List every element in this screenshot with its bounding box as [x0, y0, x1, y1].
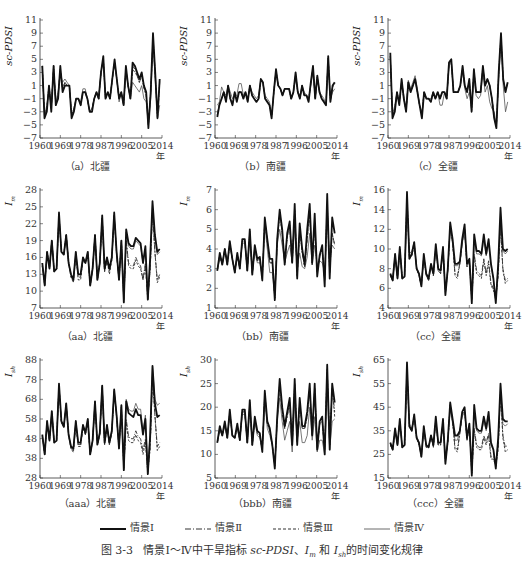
y-tick-label: 7 [206, 40, 212, 51]
y-tick-label: 3 [206, 66, 212, 77]
y-tick-label: 9 [31, 27, 37, 38]
y-axis-label: Im [3, 196, 16, 207]
x-tick-label: 2014 [499, 311, 522, 321]
y-tick-label: 16 [25, 251, 37, 262]
chart-panel-aa: 7101316192225281960196919781987199620052… [0, 170, 175, 340]
legend-item-scenario-4: 情景Ⅳ [364, 519, 424, 534]
y-axis-label: Im [351, 196, 364, 207]
y-tick-label: 5 [206, 53, 212, 64]
y-axis-label: sc-PDSI [351, 25, 362, 66]
chart-ccc-svg: 1525354555651960196919781987199620052014… [348, 340, 523, 500]
y-tick-label: 1 [379, 80, 385, 91]
y-tick-label: 9 [206, 27, 212, 38]
y-axis-label: Ish [351, 366, 364, 378]
chart-panel-c: −7−5−3−113579111960196919781987199620052… [348, 0, 523, 170]
y-tick-label: 22 [25, 218, 37, 229]
chart-panel-bbb: 510152025301960196919781987199620052014年… [175, 340, 350, 510]
y-tick-label: 48 [25, 433, 37, 444]
legend-line-solid-thick-icon [100, 526, 126, 532]
caption-text-a: 情景Ⅰ～Ⅳ中干旱指标 [143, 544, 250, 557]
panel-caption-ccc: （ccc）全疆 [348, 495, 523, 510]
series-line-1 [42, 366, 159, 474]
y-tick-label: −5 [198, 119, 212, 130]
legend-label-1: 情景Ⅰ [130, 522, 154, 533]
series-line-1 [42, 201, 159, 302]
legend-label-3: 情景Ⅲ [303, 522, 333, 533]
caption-text-b: 的时间变化规律 [346, 544, 423, 557]
x-tick-label: 2014 [151, 141, 174, 151]
y-tick-label: 11 [373, 14, 385, 25]
series-line-1 [217, 365, 334, 469]
y-tick-label: 25 [373, 448, 385, 459]
panel-caption-aaa: （aaa）北疆 [0, 495, 175, 510]
y-tick-label: 20 [200, 401, 212, 412]
x-tick-label: 2014 [326, 481, 349, 491]
svg-text:sc-PDSI: sc-PDSI [3, 25, 14, 66]
y-tick-label: 5 [31, 53, 37, 64]
figure-caption: 图 3-3 情景Ⅰ～Ⅳ中干旱指标 sc-PDSI、Im 和 Ish的时间变化规律 [0, 541, 524, 559]
series-line-1 [217, 56, 334, 118]
caption-sep: 、 [294, 544, 305, 557]
x-tick-label: 2014 [151, 311, 174, 321]
y-tick-label: −1 [198, 93, 212, 104]
caption-im-sub: m [309, 551, 316, 559]
chart-b-svg: −7−5−3−113579111960196919781987199620052… [175, 0, 350, 160]
y-tick-label: 11 [200, 14, 212, 25]
svg-text:sc-PDSI: sc-PDSI [351, 25, 362, 66]
x-tick-label: 2014 [326, 311, 349, 321]
chart-panel-a: −7−5−3−113579111960196919781987199620052… [0, 0, 175, 170]
y-tick-label: 45 [373, 401, 385, 412]
figure-number: 图 3-3 [101, 544, 133, 557]
y-tick-label: 19 [25, 235, 37, 246]
legend-line-dashed-icon [273, 526, 299, 532]
chart-aaa-svg: 2838485868788819601969197819871996200520… [0, 340, 175, 500]
y-tick-label: 65 [373, 354, 385, 365]
y-tick-label: 58 [25, 413, 37, 424]
y-tick-label: 4 [206, 243, 212, 254]
chart-panel-aaa: 2838485868788819601969197819871996200520… [0, 340, 175, 510]
legend-line-solid-thin-icon [364, 526, 390, 532]
chart-a-svg: −7−5−3−113579111960196919781987199620052… [0, 0, 175, 160]
y-tick-label: −1 [371, 93, 385, 104]
y-tick-label: 25 [25, 201, 37, 212]
svg-text:Im: Im [178, 196, 191, 207]
y-tick-label: 10 [373, 243, 385, 254]
y-tick-label: −3 [198, 106, 212, 117]
legend-item-scenario-1: 情景Ⅰ [100, 519, 154, 534]
x-tick-label: 2014 [326, 141, 349, 151]
x-tick-label: 2014 [499, 481, 522, 491]
legend-line-dashdot-icon [185, 526, 211, 532]
y-tick-label: 3 [379, 66, 385, 77]
y-tick-label: 13 [25, 268, 37, 279]
y-tick-label: 78 [25, 374, 37, 385]
y-axis-label: sc-PDSI [3, 25, 14, 66]
y-axis-label: Ish [3, 366, 16, 378]
y-tick-label: 38 [25, 452, 37, 463]
y-tick-label: 8 [379, 263, 385, 274]
y-tick-label: 7 [379, 40, 385, 51]
svg-text:Ish: Ish [178, 366, 191, 378]
series-line-1 [390, 192, 507, 303]
y-tick-label: 1 [206, 80, 212, 91]
y-tick-label: 25 [200, 378, 212, 389]
svg-text:Im: Im [351, 196, 364, 207]
y-axis-label: Ish [178, 366, 191, 378]
y-tick-label: 7 [31, 40, 37, 51]
chart-panel-bb: 12345671960196919781987199620052014年Im （… [175, 170, 350, 340]
y-tick-label: −3 [23, 106, 37, 117]
legend-label-4: 情景Ⅳ [394, 522, 424, 533]
y-tick-label: 11 [25, 14, 37, 25]
chart-panel-cc: 468101214161960196919781987199620052014年… [348, 170, 523, 340]
y-tick-label: 10 [25, 285, 37, 296]
y-axis-label: sc-PDSI [178, 25, 189, 66]
y-tick-label: 16 [373, 184, 385, 195]
y-tick-label: 5 [206, 223, 212, 234]
chart-aa-svg: 7101316192225281960196919781987199620052… [0, 170, 175, 330]
y-tick-label: 1 [31, 80, 37, 91]
y-axis-label: Im [178, 196, 191, 207]
svg-text:sc-PDSI: sc-PDSI [178, 25, 189, 66]
panel-caption-bbb: （bbb）南疆 [175, 495, 350, 510]
y-tick-label: 55 [373, 378, 385, 389]
chart-panel-ccc: 1525354555651960196919781987199620052014… [348, 340, 523, 510]
y-tick-label: 28 [25, 184, 37, 195]
